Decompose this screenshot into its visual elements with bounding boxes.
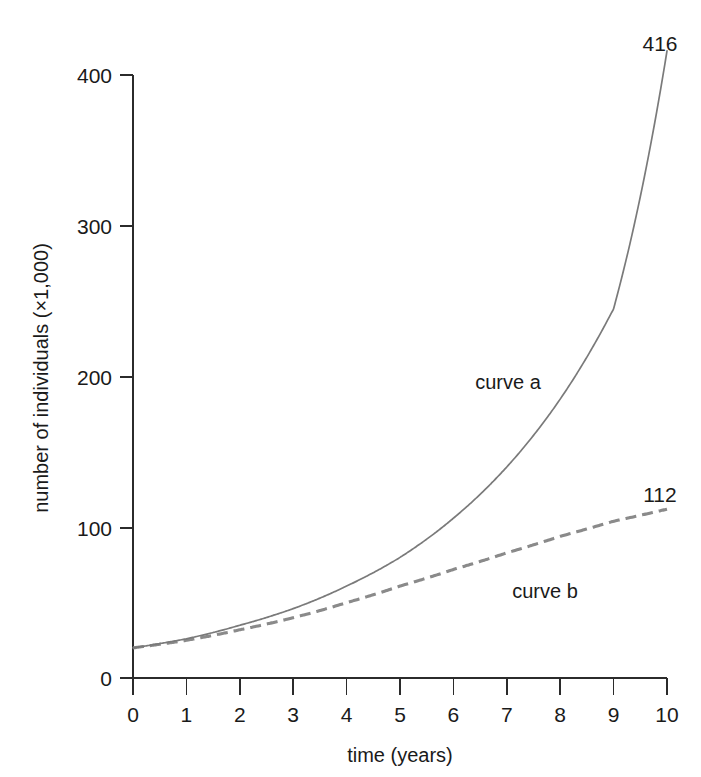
x-axis-title: time (years) [347, 744, 453, 766]
series-line-curve-b [133, 509, 667, 648]
end-value-label-curve-b: 112 [643, 483, 676, 506]
y-tick-labels: 400 300 200 100 0 [77, 64, 112, 690]
x-tick-label-0: 0 [127, 703, 139, 726]
y-tick-marks [120, 75, 133, 678]
figure-container: 400 300 200 100 0 0 1 2 3 4 5 [0, 0, 701, 777]
series-group [133, 51, 667, 648]
y-tick-label-300: 300 [77, 215, 112, 238]
y-tick-label-200: 200 [77, 366, 112, 389]
x-tick-label-2: 2 [234, 703, 246, 726]
chart-canvas: 400 300 200 100 0 0 1 2 3 4 5 [0, 0, 701, 777]
x-tick-label-1: 1 [181, 703, 193, 726]
x-tick-label-4: 4 [341, 703, 353, 726]
series-label-curve-a: curve a [475, 371, 541, 393]
x-tick-label-10: 10 [655, 703, 678, 726]
y-tick-label-100: 100 [77, 517, 112, 540]
x-tick-label-8: 8 [554, 703, 566, 726]
x-tick-label-3: 3 [287, 703, 299, 726]
series-line-curve-a [133, 51, 667, 648]
x-tick-label-7: 7 [501, 703, 513, 726]
end-value-label-curve-a: 416 [642, 32, 677, 55]
y-tick-label-0: 0 [100, 667, 112, 690]
y-tick-label-400: 400 [77, 64, 112, 87]
x-tick-label-6: 6 [448, 703, 460, 726]
x-tick-marks [133, 678, 667, 695]
x-tick-label-9: 9 [608, 703, 620, 726]
y-axis-title: number of individuals (×1,000) [30, 243, 52, 513]
x-tick-labels: 0 1 2 3 4 5 6 7 8 9 10 [127, 703, 679, 726]
x-tick-label-5: 5 [394, 703, 406, 726]
series-label-curve-b: curve b [512, 580, 578, 602]
